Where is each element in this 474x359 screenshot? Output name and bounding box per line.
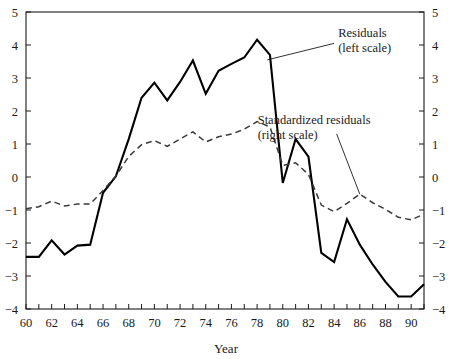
y-tick-label-right: 2 [432,105,438,119]
y-tick-label-right: −3 [432,270,445,284]
x-tick-label: 62 [45,316,58,330]
y-tick-label-right: 5 [432,6,438,20]
y-tick-label-left: 4 [12,39,19,53]
data-series-group [26,40,424,297]
chart-plot-area: 60626466687072747678808284868890 543210−… [0,0,474,359]
residuals-annotation-leader-line [267,43,334,60]
x-tick-label: 90 [405,316,418,330]
y-tick-label-left: 1 [12,138,18,152]
y-tick-label-left: −2 [5,237,18,251]
y-tick-label-right: 4 [432,39,439,53]
y-axis-right-tick-labels: 543210−1−2−3−4 [432,6,446,317]
y-tick-label-right: −2 [432,237,445,251]
annotations-group: Residuals(left scale)Standardized residu… [258,26,392,194]
y-tick-label-left: −4 [5,303,19,317]
x-tick-label: 68 [122,316,135,330]
y-tick-label-right: 1 [432,138,438,152]
x-tick-label: 72 [174,316,187,330]
y-tick-label-left: 5 [12,6,18,20]
y-tick-label-left: 3 [12,72,18,86]
residuals-annotation-line1: Residuals [338,26,387,40]
x-tick-label: 60 [20,316,33,330]
x-tick-label: 80 [277,316,290,330]
plot-frame [26,12,424,309]
x-tick-label: 86 [354,316,367,330]
x-tick-label: 66 [97,316,110,330]
x-tick-label: 82 [302,316,315,330]
x-axis-title: Year [214,341,239,356]
x-tick-label: 70 [148,316,161,330]
y-tick-label-right: 3 [432,72,438,86]
standardized-residuals-annotation-line1: Standardized residuals [258,113,371,127]
x-tick-label: 88 [379,316,392,330]
y-tick-label-left: −1 [5,204,18,218]
y-tick-label-left: 0 [12,171,18,185]
x-tick-label: 78 [251,316,264,330]
x-tick-label: 74 [199,316,212,330]
y-tick-label-left: −3 [5,270,18,284]
y-axis-left-tick-labels: 543210−1−2−3−4 [5,6,19,317]
x-tick-label: 64 [71,316,84,330]
chart-figure: 60626466687072747678808284868890 543210−… [0,0,474,359]
standardized-residuals-annotation-line2: (right scale) [258,128,318,142]
series-line-standardized-residuals [26,122,424,220]
series-line-residuals [26,40,424,297]
x-tick-label: 76 [225,316,238,330]
y-tick-label-left: 2 [12,105,18,119]
x-axis-tick-labels: 60626466687072747678808284868890 [20,316,418,330]
y-tick-label-right: −1 [432,204,445,218]
axis-ticks [26,12,424,309]
residuals-annotation-line2: (left scale) [338,41,391,55]
y-tick-label-right: 0 [432,171,438,185]
standardized-residuals-annotation-leader-line [337,134,360,194]
x-tick-label: 84 [328,316,341,330]
y-tick-label-right: −4 [432,303,446,317]
